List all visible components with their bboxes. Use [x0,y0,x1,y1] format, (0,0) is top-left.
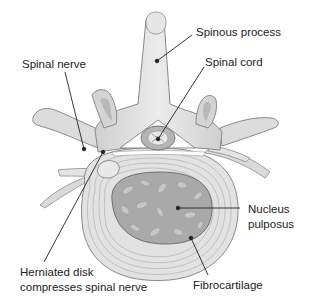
label-fibrocartilage: Fibrocartilage [193,278,263,292]
spine-disk-diagram [0,0,314,306]
label-herniated-line1: Herniated disk [20,265,94,279]
label-spinal-nerve: Spinal nerve [22,57,86,71]
herniation [97,161,119,178]
label-nucleus-pulposus-line2: pulposus [248,217,294,231]
label-herniated-line2: compresses spinal nerve [20,280,147,294]
label-spinal-cord: Spinal cord [205,55,263,69]
label-spinous-process: Spinous process [196,25,281,39]
label-nucleus-pulposus-line1: Nucleus [248,202,290,216]
